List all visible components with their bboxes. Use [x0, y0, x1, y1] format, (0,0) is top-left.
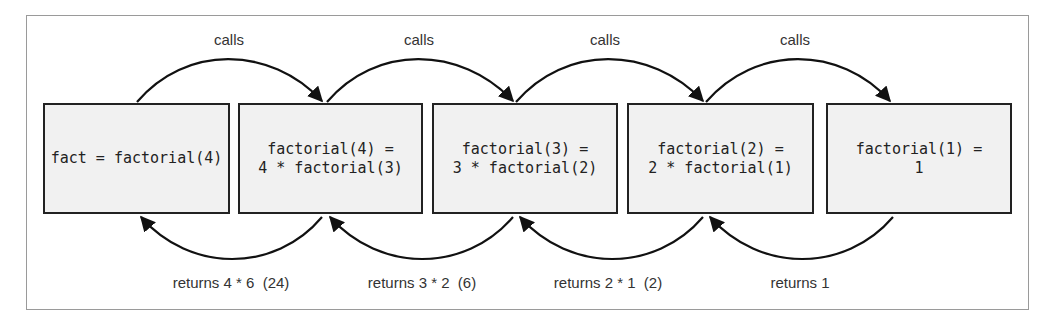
return-label-3: returns 2 * 1 (2) — [554, 274, 662, 291]
return-arrow-1 — [141, 217, 322, 259]
call-label-1: calls — [214, 31, 244, 48]
return-arrow-4 — [710, 217, 893, 259]
call-arrow-2 — [327, 59, 513, 102]
return-label-1: returns 4 * 6 (24) — [173, 274, 290, 291]
return-label-2: returns 3 * 2 (6) — [368, 274, 476, 291]
call-label-4: calls — [780, 31, 810, 48]
call-arrow-3 — [516, 59, 703, 102]
call-arrow-4 — [706, 59, 890, 102]
return-arrow-2 — [330, 217, 513, 259]
return-arrow-3 — [520, 217, 703, 259]
call-arrow-1 — [137, 59, 322, 102]
arrows-layer — [0, 0, 1052, 329]
return-label-4: returns 1 — [770, 274, 829, 291]
call-label-2: calls — [404, 31, 434, 48]
call-label-3: calls — [590, 31, 620, 48]
